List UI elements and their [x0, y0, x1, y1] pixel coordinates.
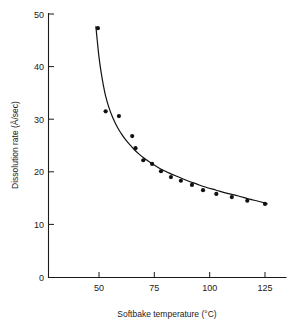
x-tick-label-125: 125 — [257, 283, 272, 293]
x-axis-ticks — [99, 272, 265, 278]
data-point — [141, 158, 145, 162]
y-axis-title: Dissolution rate (Å/sec) — [10, 101, 20, 189]
y-tick-label-30: 30 — [34, 115, 44, 125]
data-point — [117, 114, 121, 118]
y-tick-label-20: 20 — [34, 167, 44, 177]
x-axis-title: Softbake temperature (°C) — [117, 309, 216, 319]
data-point — [263, 202, 267, 206]
y-tick-label-10: 10 — [34, 220, 44, 230]
data-point — [201, 188, 205, 192]
x-tick-label-50: 50 — [94, 283, 104, 293]
data-point — [245, 199, 249, 203]
fitted-curve — [96, 27, 267, 204]
data-point — [214, 192, 218, 196]
y-tick-label-40: 40 — [34, 62, 44, 72]
data-point-group — [96, 26, 267, 206]
data-point — [159, 169, 163, 173]
data-point — [230, 195, 234, 199]
y-tick-label-50: 50 — [34, 10, 44, 20]
dissolution-rate-chart-figure: 50 40 30 20 10 0 50 75 100 125 Softbake … — [0, 0, 292, 328]
data-point — [190, 183, 194, 187]
y-tick-label-0: 0 — [39, 273, 44, 283]
x-tick-label-75: 75 — [149, 283, 159, 293]
x-tick-label-100: 100 — [202, 283, 217, 293]
data-point — [130, 134, 134, 138]
data-point — [104, 109, 108, 113]
data-point — [179, 179, 183, 183]
data-point — [169, 175, 173, 179]
data-point — [96, 26, 100, 30]
data-point — [150, 162, 154, 166]
y-axis-ticks — [49, 14, 55, 224]
chart-plot-area: 50 40 30 20 10 0 50 75 100 125 Softbake … — [0, 0, 292, 328]
data-point — [133, 146, 137, 150]
